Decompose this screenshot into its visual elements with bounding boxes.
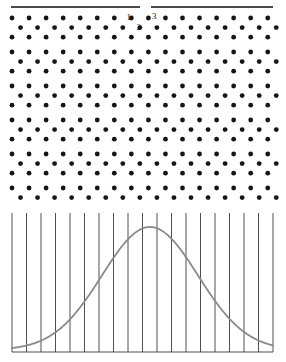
lattice-dot	[257, 25, 262, 30]
lattice-dot	[265, 186, 270, 191]
lattice-dot	[163, 16, 168, 21]
lattice-dot	[52, 127, 57, 132]
lattice-dot	[27, 35, 32, 40]
lattice-dot	[257, 127, 262, 132]
lattice-dot	[129, 84, 134, 89]
lattice-dot	[78, 118, 83, 123]
lattice-dot	[206, 195, 211, 200]
lattice-dot	[103, 93, 108, 98]
lattice-dot	[248, 152, 253, 157]
lattice-dot	[172, 127, 177, 132]
lattice-dot	[61, 137, 66, 142]
lattice-dot	[129, 103, 134, 108]
lattice-dot	[206, 161, 211, 166]
lattice-dot	[27, 171, 32, 176]
lattice-dot	[112, 118, 117, 123]
lattice-dot	[112, 171, 117, 176]
lattice-dot	[231, 137, 236, 142]
lattice-dot	[129, 186, 134, 191]
lattice-dot	[257, 93, 262, 98]
lattice-dot	[78, 50, 83, 55]
lattice-dot	[95, 69, 100, 74]
lattice-dot	[155, 25, 160, 30]
lattice-dot	[189, 93, 194, 98]
lattice-dot	[137, 93, 142, 98]
lattice-dot	[197, 69, 202, 74]
lattice-dot	[274, 93, 279, 98]
lattice-dot	[240, 127, 245, 132]
lattice-dot	[10, 171, 15, 176]
lattice-dot	[137, 59, 142, 64]
lattice-dot	[265, 84, 270, 89]
lattice-dot	[223, 25, 228, 30]
lattice-dot	[214, 103, 219, 108]
lattice-dot	[163, 84, 168, 89]
lattice-dot	[206, 59, 211, 64]
lattice-dot	[180, 35, 185, 40]
lattice-dot	[44, 16, 49, 21]
lattice-dot	[35, 93, 40, 98]
lattice-dot	[78, 171, 83, 176]
lattice-dot	[10, 118, 15, 123]
lattice-dot	[18, 127, 23, 132]
lattice-dot	[69, 59, 74, 64]
lattice-dot	[10, 50, 15, 55]
lattice-dot	[197, 35, 202, 40]
lattice-dot	[231, 69, 236, 74]
lattice-dot	[103, 25, 108, 30]
lattice-dot	[257, 59, 262, 64]
lattice-dot	[214, 118, 219, 123]
lattice-dot	[146, 152, 151, 157]
lattice-dot	[214, 171, 219, 176]
lattice-dot	[120, 195, 125, 200]
lattice-dot	[61, 103, 66, 108]
lattice-dot	[61, 84, 66, 89]
lattice-dot	[69, 161, 74, 166]
figure-background	[0, 0, 286, 362]
lattice-dot	[27, 137, 32, 142]
lattice-dot	[78, 186, 83, 191]
lattice-dot	[189, 127, 194, 132]
lattice-dot	[197, 118, 202, 123]
lattice-dot	[231, 186, 236, 191]
lattice-dot	[180, 103, 185, 108]
lattice-dot	[231, 103, 236, 108]
lattice-dot	[27, 50, 32, 55]
lattice-dot	[214, 69, 219, 74]
lattice-dot	[61, 35, 66, 40]
lattice-dot	[163, 50, 168, 55]
lattice-dot	[274, 59, 279, 64]
lattice-dot	[78, 137, 83, 142]
lattice-dot	[231, 118, 236, 123]
lattice-dot	[146, 118, 151, 123]
lattice-dot	[155, 195, 160, 200]
lattice-dot	[265, 118, 270, 123]
lattice-dot	[146, 171, 151, 176]
lattice-dot	[265, 35, 270, 40]
lattice-dot	[112, 50, 117, 55]
lattice-dot	[18, 161, 23, 166]
lattice-dot	[129, 137, 134, 142]
lattice-dot	[95, 137, 100, 142]
lattice-dot	[78, 103, 83, 108]
lattice-dot	[231, 50, 236, 55]
lattice-dot	[10, 137, 15, 142]
lattice-dot	[155, 59, 160, 64]
lattice-dot	[112, 16, 117, 21]
lattice-dot	[180, 69, 185, 74]
lattice-dot	[146, 186, 151, 191]
lattice-dot	[86, 59, 91, 64]
lattice-dot	[35, 195, 40, 200]
lattice-dot	[257, 195, 262, 200]
lattice-dot	[231, 171, 236, 176]
lattice-dot	[274, 161, 279, 166]
lattice-dot	[155, 161, 160, 166]
lattice-dot	[180, 16, 185, 21]
lattice-dot	[112, 152, 117, 157]
lattice-dot	[129, 152, 134, 157]
lattice-dot	[18, 59, 23, 64]
lattice-dot	[10, 186, 15, 191]
lattice-dot	[163, 69, 168, 74]
lattice-dot	[146, 84, 151, 89]
lattice-dot	[69, 93, 74, 98]
